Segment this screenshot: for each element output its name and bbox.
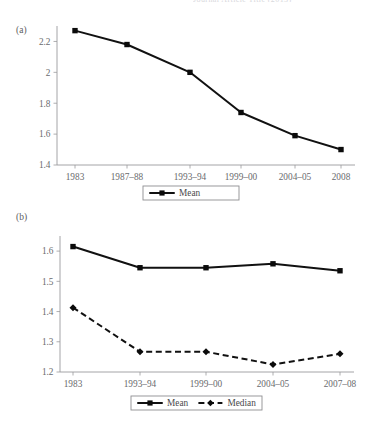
x-tick-label: 1999–00	[190, 379, 223, 389]
legend-marker	[159, 190, 164, 195]
x-tick-label: 1983	[66, 172, 85, 182]
x-tick-label: 1993–94	[174, 172, 207, 182]
y-tick-label: 1.3	[42, 337, 54, 347]
data-point-marker	[70, 244, 75, 249]
x-tick-label: 1993–94	[124, 379, 157, 389]
x-tick-label: 2004–05	[279, 172, 312, 182]
cropped-header-text: Journal Article Title (2013)	[193, 0, 292, 2]
data-point-marker	[238, 110, 243, 115]
data-point-marker	[270, 261, 275, 266]
figure-page: Journal Article Title (2013) (a) 1.41.61…	[0, 0, 380, 437]
data-point-marker	[337, 268, 342, 273]
legend-label-median: Median	[227, 398, 256, 408]
x-tick-label: 2007–08	[324, 379, 357, 389]
data-point-marker	[124, 42, 129, 47]
chart-panel-b: 1.21.31.41.51.619831993–941999–002004–05…	[0, 206, 380, 431]
data-point-marker	[203, 348, 210, 355]
data-point-marker	[72, 28, 77, 33]
data-point-marker	[270, 361, 277, 368]
y-tick-label: 1.8	[39, 99, 51, 109]
data-point-marker	[292, 133, 297, 138]
y-tick-label: 1.6	[39, 129, 51, 139]
x-tick-label: 1999–00	[225, 172, 258, 182]
series-line-median	[73, 308, 340, 365]
data-point-marker	[187, 70, 192, 75]
x-tick-label: 2004–05	[257, 379, 290, 389]
y-tick-label: 1.4	[39, 160, 51, 170]
x-tick-label: 2008	[332, 172, 351, 182]
data-point-marker	[337, 350, 344, 357]
legend-marker	[147, 400, 152, 405]
data-point-marker	[338, 147, 343, 152]
legend-label-mean: Mean	[179, 188, 201, 198]
data-point-marker	[203, 265, 208, 270]
y-tick-label: 2.2	[39, 37, 51, 47]
series-line-mean	[75, 31, 341, 150]
legend-label-mean: Mean	[167, 398, 189, 408]
y-tick-label: 1.5	[42, 277, 54, 287]
y-tick-label: 2	[46, 68, 51, 78]
x-tick-label: 1987–88	[111, 172, 144, 182]
y-tick-label: 1.4	[42, 307, 54, 317]
chart-panel-a: 1.41.61.822.219831987–881993–941999–0020…	[0, 14, 380, 206]
y-tick-label: 1.6	[42, 246, 54, 256]
x-tick-label: 1983	[64, 379, 83, 389]
data-point-marker	[137, 265, 142, 270]
y-tick-label: 1.2	[42, 367, 54, 377]
